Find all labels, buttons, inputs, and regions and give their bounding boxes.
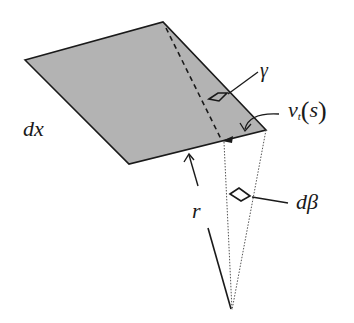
dotted-ray-left — [224, 142, 232, 310]
label-gamma: γ — [260, 60, 268, 80]
label-vt-main: v — [288, 97, 298, 122]
dbeta-leader-line — [252, 197, 288, 203]
solid-ray — [208, 228, 231, 309]
label-r: r — [192, 200, 201, 222]
dbeta-angle-marker-icon — [230, 188, 250, 201]
label-vt-of-s: vt(s) — [288, 98, 327, 124]
diagram: dx γ vt(s) dβ r — [0, 0, 354, 323]
label-vt-open-paren: ( — [301, 96, 310, 125]
diagram-canvas — [0, 0, 354, 323]
label-vt-close-paren: ) — [318, 96, 327, 125]
gamma-leader-line — [228, 72, 258, 94]
label-dx: dx — [23, 118, 44, 140]
label-dbeta: dβ — [296, 191, 318, 213]
dotted-ray-right — [232, 130, 266, 310]
r-arrowhead-icon — [184, 154, 194, 162]
label-vt-arg: s — [310, 97, 319, 122]
